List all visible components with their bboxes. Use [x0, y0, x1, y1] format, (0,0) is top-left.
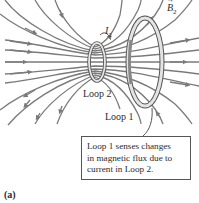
- explanation-callout: Loop 1 senses changes in magnetic flux d…: [81, 136, 191, 180]
- panel-label: (a): [4, 190, 16, 200]
- magnetic-field-lines: [0, 0, 199, 125]
- loop-1-label: Loop 1: [105, 112, 134, 122]
- mutual-inductance-diagram: I2 →B2 Loop 2 Loop 1 Loop 1 senses chang…: [0, 0, 199, 203]
- callout-line: Loop 1 senses changes: [87, 141, 190, 153]
- field-label: →B2: [167, 3, 177, 16]
- callout-leader-line: [143, 108, 152, 136]
- callout-line: current in Loop 2.: [87, 164, 190, 176]
- current-label: I2: [105, 26, 112, 39]
- loop-2-label: Loop 2: [83, 89, 112, 99]
- callout-line: in magnetic flux due to: [87, 153, 190, 165]
